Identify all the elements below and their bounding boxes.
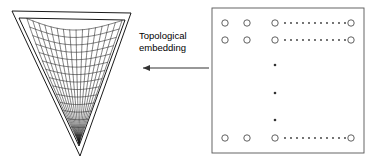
horizontal-ellipsis-dot [284, 22, 286, 24]
horizontal-ellipsis-dot [290, 22, 292, 24]
mesh-line [57, 28, 79, 143]
horizontal-ellipsis-dot [314, 137, 316, 139]
horizontal-ellipsis-dot [332, 22, 334, 24]
simplex-mesh-svg [0, 0, 140, 165]
lattice-node-circle [222, 135, 228, 141]
horizontal-ellipsis-dot [320, 22, 322, 24]
horizontal-ellipsis-dot [302, 22, 304, 24]
horizontal-ellipsis-dot [302, 137, 304, 139]
horizontal-ellipsis-dot [338, 137, 340, 139]
horizontal-ellipsis-dot [296, 39, 298, 41]
mesh-line [46, 69, 105, 74]
wireframe-mesh-surface [27, 19, 122, 143]
vertical-ellipsis-dot [274, 119, 277, 122]
horizontal-ellipsis-dot [320, 39, 322, 41]
vertical-ellipsis-dot [274, 64, 277, 67]
horizontal-ellipsis-dot [290, 137, 292, 139]
lattice-node-circle [348, 20, 354, 26]
lattice-svg [211, 7, 366, 155]
horizontal-ellipsis-dot [344, 39, 346, 41]
lattice-node-circle [222, 20, 228, 26]
annotation-line-2: embedding [133, 42, 213, 54]
horizontal-ellipsis-dot [284, 39, 286, 41]
horizontal-ellipsis-dot [338, 22, 340, 24]
lattice-node-group [222, 20, 354, 141]
horizontal-ellipsis-dot [314, 39, 316, 41]
horizontal-ellipsis-dot [332, 39, 334, 41]
horizontal-ellipsis-dot [308, 22, 310, 24]
horizontal-ellipsis-dot [332, 137, 334, 139]
arrow-head [143, 65, 150, 71]
lattice-node-circle [244, 37, 250, 43]
lattice-node-circle [272, 135, 278, 141]
lattice-node-circle [272, 20, 278, 26]
horizontal-ellipsis-dot [326, 137, 328, 139]
lattice-node-circle [222, 37, 228, 43]
mesh-line [71, 127, 84, 128]
horizontal-ellipsis-dot [302, 39, 304, 41]
lattice-node-circle [272, 37, 278, 43]
topological-embedding-figure: Topological embedding [0, 0, 375, 165]
leftward-arrow [133, 60, 213, 76]
mesh-line [39, 53, 110, 60]
horizontal-ellipsis-dot [308, 39, 310, 41]
lattice-node-circle [244, 20, 250, 26]
lattice-node-circle [348, 37, 354, 43]
left-panel-simplex [0, 0, 140, 165]
horizontal-ellipsis-dot [326, 39, 328, 41]
mesh-line [79, 25, 109, 143]
mesh-line [79, 30, 83, 143]
annotation-block: Topological embedding [133, 30, 213, 85]
horizontal-ellipsis-dot [296, 22, 298, 24]
horizontal-ellipsis-dot [284, 137, 286, 139]
horizontal-ellipsis-dot [314, 22, 316, 24]
lattice-node-circle [244, 135, 250, 141]
horizontal-ellipsis-dot [296, 137, 298, 139]
annotation-line-1: Topological [133, 30, 213, 42]
right-panel-lattice [211, 7, 366, 155]
mesh-line [42, 61, 107, 67]
lattice-border-rect [212, 8, 364, 153]
mesh-line [49, 78, 102, 82]
outer-triangle-outline [12, 11, 131, 156]
horizontal-ellipsis-dot [326, 22, 328, 24]
mesh-line [36, 44, 113, 52]
mesh-line [79, 23, 115, 143]
vertical-ellipsis-dot [274, 92, 277, 95]
horizontal-ellipsis-dot [338, 39, 340, 41]
horizontal-ellipsis-dot [290, 39, 292, 41]
horizontal-ellipsis-dot [344, 137, 346, 139]
lattice-node-circle [348, 135, 354, 141]
horizontal-ellipsis-dot [308, 137, 310, 139]
mesh-line [39, 23, 79, 143]
horizontal-ellipsis-dot [344, 22, 346, 24]
horizontal-ellipsis-dot [320, 137, 322, 139]
